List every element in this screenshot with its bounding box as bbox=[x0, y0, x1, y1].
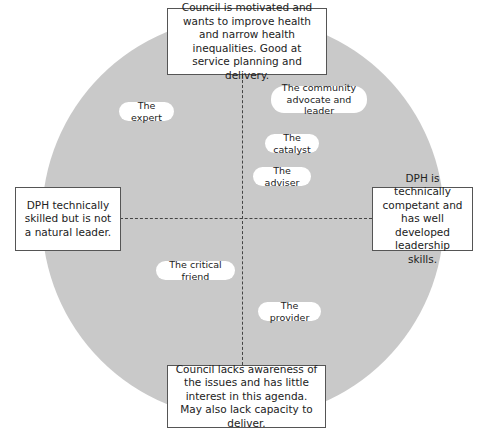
vertical-axis-dashed-line bbox=[242, 75, 243, 365]
role-pill-adviser: The adviser bbox=[253, 167, 311, 186]
role-label: The adviser bbox=[259, 165, 305, 188]
role-pill-provider: The provider bbox=[258, 302, 321, 321]
axis-label-right: DPH is technically competant and has wel… bbox=[379, 172, 466, 267]
axis-box-right: DPH is technically competant and has wel… bbox=[372, 187, 473, 251]
role-label: The provider bbox=[264, 300, 315, 323]
role-label: The community advocate and leader bbox=[277, 82, 361, 117]
axis-box-left: DPH technically skilled but is not a nat… bbox=[15, 187, 121, 251]
axis-label-top: Council is motivated and wants to improv… bbox=[174, 1, 320, 82]
role-pill-expert: The expert bbox=[119, 102, 174, 121]
horizontal-axis-dashed-line bbox=[120, 218, 372, 219]
role-label: The expert bbox=[125, 100, 168, 123]
axis-label-bottom: Council lacks awareness of the issues an… bbox=[174, 363, 319, 431]
role-pill-community-advocate: The community advocate and leader bbox=[271, 86, 367, 113]
axis-box-top: Council is motivated and wants to improv… bbox=[167, 8, 327, 75]
role-label: The catalyst bbox=[271, 132, 313, 155]
axis-box-bottom: Council lacks awareness of the issues an… bbox=[167, 365, 326, 428]
axis-label-left: DPH technically skilled but is not a nat… bbox=[22, 199, 114, 240]
role-label: The critical friend bbox=[162, 259, 229, 282]
role-pill-catalyst: The catalyst bbox=[265, 134, 319, 153]
role-pill-critical-friend: The critical friend bbox=[156, 261, 235, 280]
